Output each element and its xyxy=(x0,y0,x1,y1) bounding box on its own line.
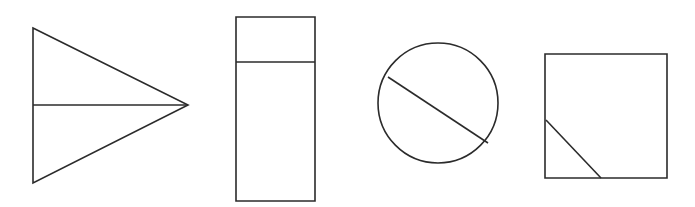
square-outline xyxy=(545,54,667,178)
shape-triangle xyxy=(33,28,188,183)
square-corner-diagonal xyxy=(546,120,601,178)
rectangle-outline xyxy=(236,17,315,201)
figure-canvas xyxy=(0,0,695,207)
shape-circle xyxy=(378,43,498,163)
shape-rectangle xyxy=(236,17,315,201)
circle-diagonal-chord xyxy=(388,77,488,143)
shape-square xyxy=(545,54,667,178)
circle-outline xyxy=(378,43,498,163)
shapes-drawing xyxy=(0,0,695,207)
